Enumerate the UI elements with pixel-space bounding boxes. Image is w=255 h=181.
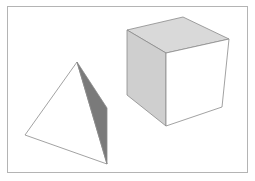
cube-front-face	[166, 39, 229, 126]
diagram-canvas	[0, 0, 255, 181]
cube	[127, 17, 229, 126]
tetrahedron	[25, 62, 107, 164]
